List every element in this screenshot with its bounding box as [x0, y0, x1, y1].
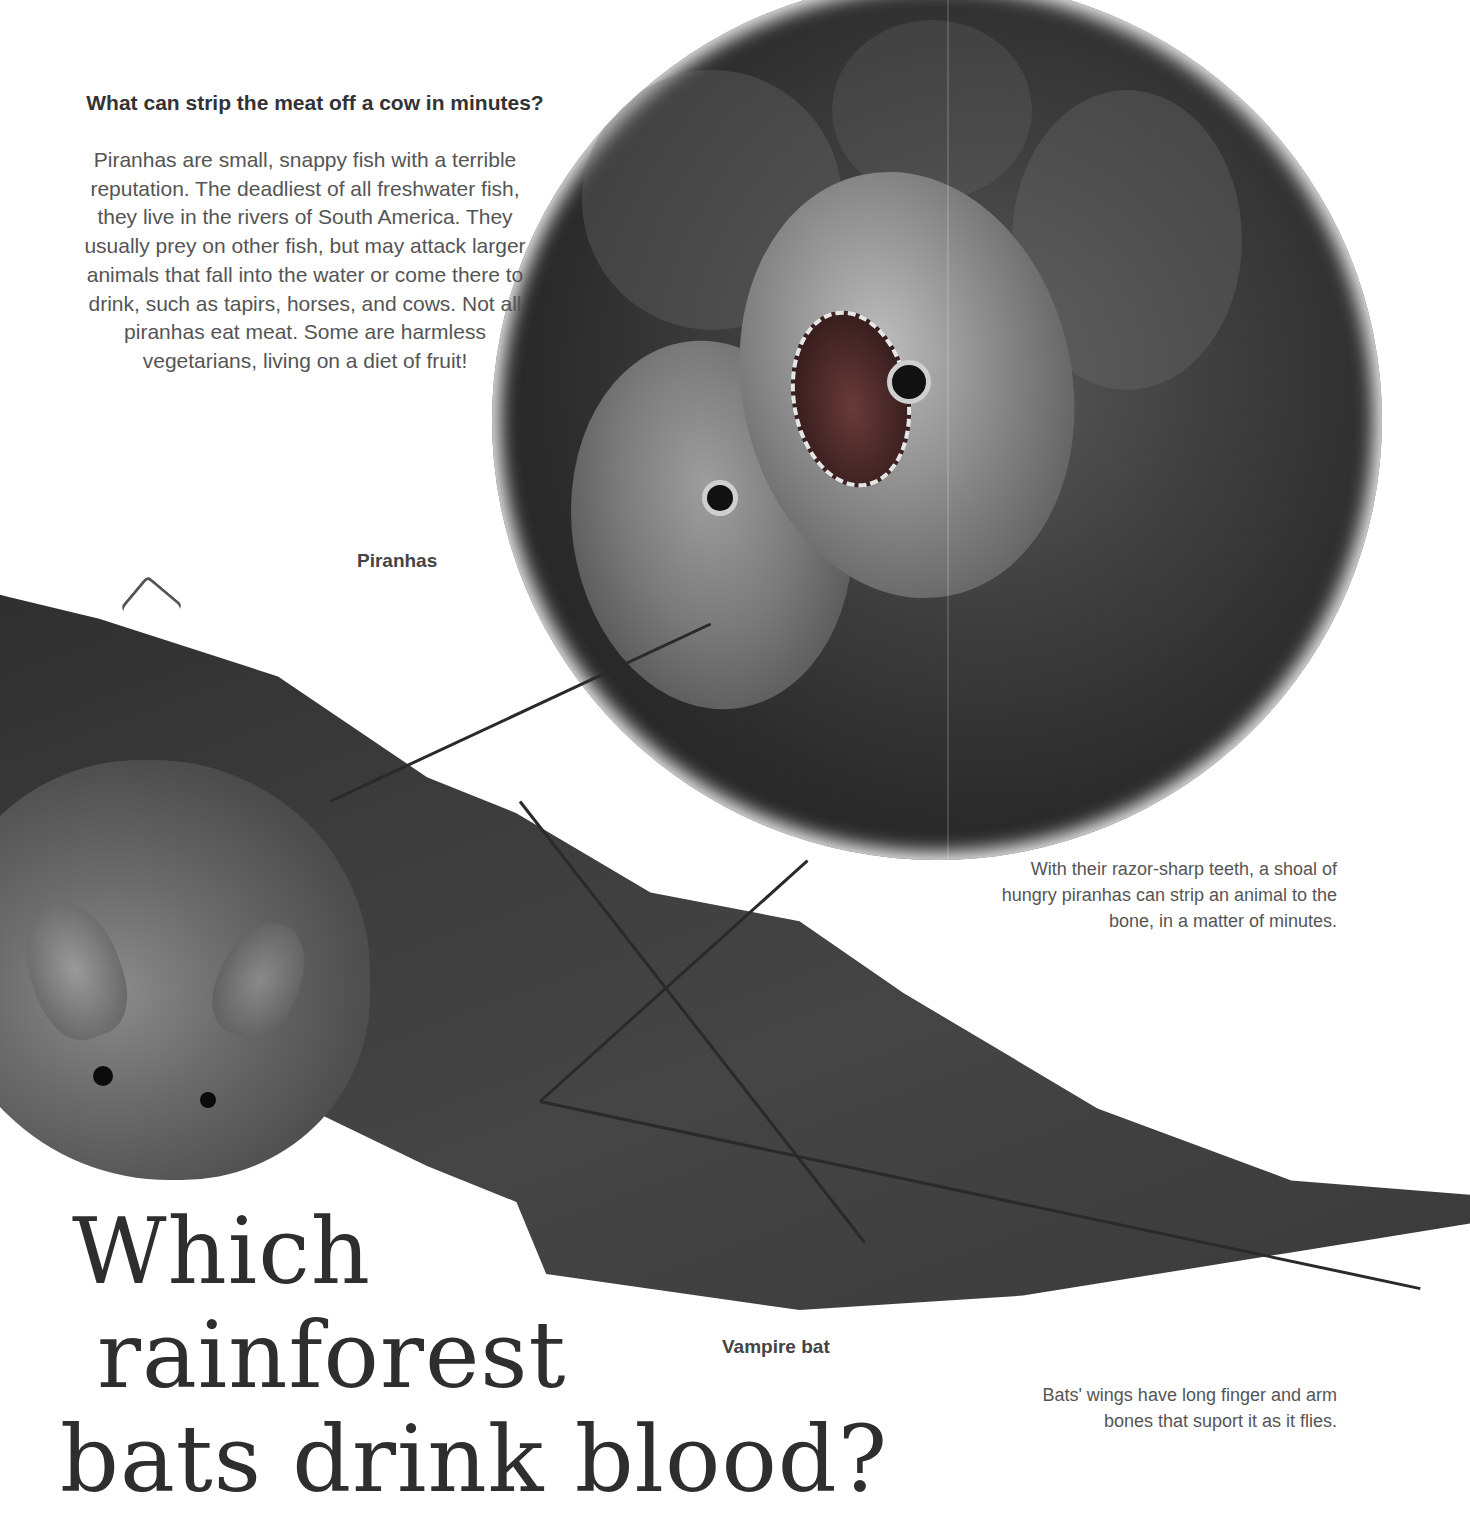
title-line-1: Which — [72, 1200, 892, 1304]
piranha-eye — [702, 480, 738, 516]
bat-eye — [93, 1066, 113, 1086]
piranha-image-caption: With their razor-sharp teeth, a shoal of… — [980, 856, 1337, 934]
piranha-question-heading: What can strip the meat off a cow in min… — [80, 90, 550, 115]
bat-image-caption: Bats' wings have long finger and arm bon… — [1030, 1382, 1337, 1434]
piranha-eye — [887, 360, 931, 404]
vampire-bat-image-label: Vampire bat — [722, 1336, 830, 1358]
bat-eye — [200, 1092, 216, 1108]
background-piranha — [832, 20, 1032, 200]
piranhas-image-label: Piranhas — [357, 550, 437, 572]
piranhas-illustration — [492, 0, 1382, 860]
title-line-3: bats drink blood? — [60, 1408, 892, 1512]
piranha-body-text: Piranhas are small, snappy fish with a t… — [70, 146, 540, 376]
page-gutter — [947, 0, 949, 860]
